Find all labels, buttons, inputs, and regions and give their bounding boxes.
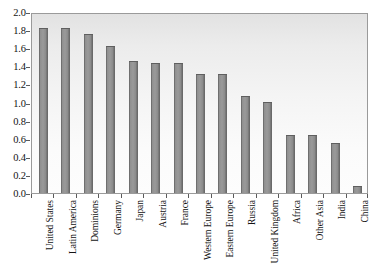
plot-area	[31, 13, 368, 194]
y-axis-tick-mark	[26, 176, 30, 177]
bars-layer	[32, 14, 367, 193]
x-axis-category-label-text: China	[361, 200, 371, 222]
x-axis-tick-mark	[256, 194, 257, 198]
x-axis-tick-mark	[278, 194, 279, 198]
x-axis-category-label-text: Latin America	[69, 200, 79, 254]
bar	[174, 63, 183, 193]
x-axis-category-label: Dominions	[91, 200, 101, 242]
x-axis-category-label: Japan	[136, 200, 146, 221]
x-axis-category-label-text: United Kingdom	[271, 200, 281, 263]
x-axis-category-label: United States	[46, 200, 56, 250]
y-axis-tick-label: 0.2	[13, 171, 26, 182]
x-axis-tick-mark	[323, 194, 324, 198]
bar	[353, 186, 362, 193]
y-axis-tick-mark	[26, 122, 30, 123]
x-axis-category-label: France	[181, 200, 191, 226]
x-axis-category-label: India	[338, 200, 348, 219]
y-axis-tick-mark	[26, 49, 30, 50]
x-axis-tick-mark	[188, 194, 189, 198]
x-axis-tick-mark	[121, 194, 122, 198]
bar	[61, 28, 70, 193]
x-axis-category-label: Russia	[248, 200, 258, 225]
bar	[286, 135, 295, 193]
x-axis-category-label-text: Western Europe	[204, 200, 214, 260]
y-axis-tick-label: 1.6	[13, 44, 26, 55]
x-axis-category-label: Africa	[293, 200, 303, 224]
y-axis-tick-label: 1.0	[13, 98, 26, 109]
bar	[196, 74, 205, 193]
x-axis-tick-mark	[98, 194, 99, 198]
x-axis-category-label: Latin America	[69, 200, 79, 254]
x-axis-category-label: Western Europe	[204, 200, 214, 260]
y-axis-tick-label: 0.6	[13, 134, 26, 145]
x-axis-tick-mark	[53, 194, 54, 198]
x-axis-category-label-text: Russia	[248, 200, 258, 225]
x-axis-category-label: China	[361, 200, 371, 222]
x-axis-tick-mark	[211, 194, 212, 198]
bar	[241, 96, 250, 193]
y-axis-tick-mark	[26, 158, 30, 159]
x-axis-tick-mark	[166, 194, 167, 198]
x-axis-category-label-text: Austria	[159, 200, 169, 228]
x-axis-tick-mark	[301, 194, 302, 198]
x-axis-tick-mark	[143, 194, 144, 198]
x-axis-category-label: Other Asia	[316, 200, 326, 240]
x-axis-tick-mark	[31, 194, 32, 198]
y-axis-tick-label: 0.4	[13, 153, 26, 164]
x-axis-category-label-text: United States	[46, 200, 56, 250]
y-axis-tick-label: 0.8	[13, 116, 26, 127]
x-axis-ticks	[31, 194, 368, 199]
bar	[263, 102, 272, 193]
x-axis-category-label: Eastern Europe	[226, 200, 236, 258]
y-axis-tick-label: 1.8	[13, 26, 26, 37]
x-axis-category-label-text: France	[181, 200, 191, 226]
bar	[106, 46, 115, 193]
x-axis-category-label: Austria	[159, 200, 169, 228]
x-axis: United StatesLatin AmericaDominionsGerma…	[31, 200, 368, 277]
y-axis-tick-label: 1.4	[13, 62, 26, 73]
y-axis-tick-mark	[26, 31, 30, 32]
x-axis-category-label: United Kingdom	[271, 200, 281, 263]
x-axis-tick-mark	[367, 194, 368, 198]
x-axis-category-label: Germany	[114, 200, 124, 235]
y-axis-tick-label: 2.0	[13, 8, 26, 19]
y-axis-tick-label: 0.0	[13, 189, 26, 200]
x-axis-tick-mark	[233, 194, 234, 198]
x-axis-category-label-text: India	[338, 200, 348, 219]
x-axis-category-label-text: Japan	[136, 200, 146, 221]
y-axis-tick-mark	[26, 67, 30, 68]
x-axis-tick-mark	[76, 194, 77, 198]
x-axis-category-label-text: Africa	[293, 200, 303, 224]
x-axis-category-label-text: Other Asia	[316, 200, 326, 240]
bar	[84, 34, 93, 193]
y-axis-tick-mark	[26, 13, 30, 14]
x-axis-category-label-text: Germany	[114, 200, 124, 235]
y-axis-tick-mark	[26, 85, 30, 86]
bar	[308, 135, 317, 193]
bar	[218, 74, 227, 193]
bar	[331, 143, 340, 193]
bar	[129, 61, 138, 193]
y-axis-tick-mark	[26, 140, 30, 141]
y-axis: 0.00.20.40.60.81.01.21.41.61.82.0	[0, 0, 30, 200]
y-axis-tick-mark	[26, 104, 30, 105]
x-axis-category-label-text: Eastern Europe	[226, 200, 236, 258]
bar-chart: 0.00.20.40.60.81.01.21.41.61.82.0 United…	[0, 0, 381, 277]
y-axis-tick-label: 1.2	[13, 80, 26, 91]
y-axis-tick-mark	[26, 194, 30, 195]
x-axis-tick-mark	[346, 194, 347, 198]
x-axis-category-label-text: Dominions	[91, 200, 101, 242]
bar	[151, 63, 160, 193]
bar	[39, 28, 48, 193]
